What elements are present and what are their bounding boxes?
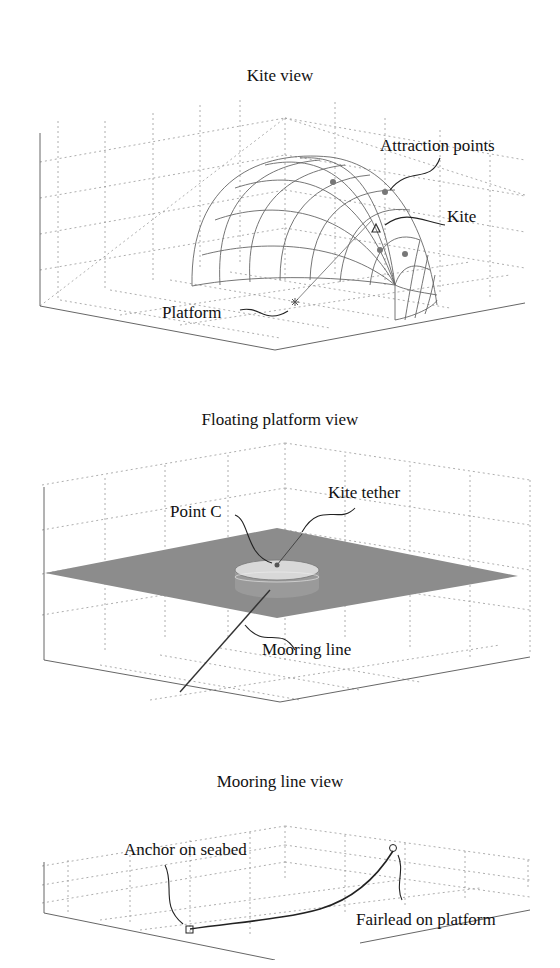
kite-tether-label: Kite tether <box>328 483 400 503</box>
floating-platform-view-title: Floating platform view <box>0 410 560 430</box>
mooring-line-plot <box>0 820 560 960</box>
kite-label: Kite <box>447 207 476 227</box>
attraction-points-label: Attraction points <box>380 136 495 156</box>
floating-platform-plot <box>0 440 560 720</box>
mooring-line-view-title: Mooring line view <box>0 772 560 792</box>
mooring-line-label: Mooring line <box>262 640 351 660</box>
fairlead-label: Fairlead on platform <box>356 910 496 930</box>
anchor-label: Anchor on seabed <box>124 840 247 860</box>
point-c-label: Point C <box>170 502 222 522</box>
platform-label: Platform <box>162 303 222 323</box>
